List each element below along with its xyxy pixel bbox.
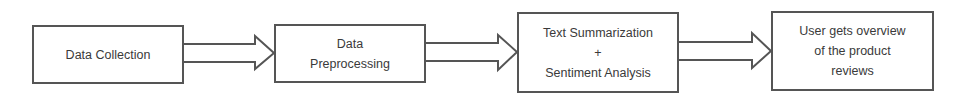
node-label-line-3: Sentiment Analysis (545, 63, 651, 83)
node-label-line-1: Text Summarization (543, 23, 653, 43)
node-text-summarization-sentiment: Text Summarization + Sentiment Analysis (517, 12, 679, 93)
block-arrow-icon (184, 36, 274, 69)
node-data-collection: Data Collection (32, 25, 184, 84)
node-label-line-2: + (594, 43, 601, 63)
node-user-overview: User gets overview of the product review… (771, 11, 934, 91)
node-data-preprocessing: Data Preprocessing (274, 24, 426, 83)
block-arrow-icon (426, 35, 517, 70)
block-arrow-icon (679, 33, 771, 68)
node-label-line-1: Data (337, 34, 363, 54)
node-label-line-2: Preprocessing (310, 54, 390, 74)
node-label-line-3: reviews (831, 61, 873, 81)
node-label-line-2: of the product (814, 41, 890, 61)
node-label-line-1: User gets overview (799, 21, 905, 41)
node-label: Data Collection (66, 45, 151, 65)
